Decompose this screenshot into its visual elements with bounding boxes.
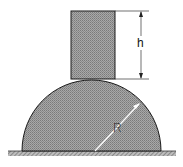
hemisphere [22, 80, 161, 151]
arrow-up-icon [139, 11, 143, 17]
ground [8, 151, 176, 156]
height-dimension: h [115, 11, 149, 79]
diagram-canvas: R h [0, 0, 183, 167]
arrow-down-icon [139, 73, 143, 79]
radius-label: R [113, 121, 122, 135]
block [71, 11, 115, 79]
height-label: h [137, 36, 144, 50]
